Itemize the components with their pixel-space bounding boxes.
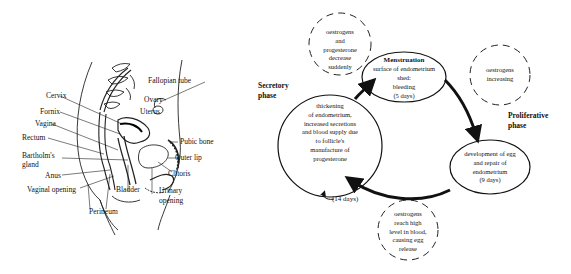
cycle-diagram xyxy=(0,0,571,274)
hormone-high-text: oestrogens reach high level in blood, ca… xyxy=(378,210,438,254)
phase-label-secretory: Secretory phase xyxy=(258,81,289,101)
duration-14-days: (14 days) xyxy=(332,196,358,203)
hormone-decrease-text: oestrogens and progesterone decrease sud… xyxy=(310,28,370,72)
stage-proliferative-text: development of egg and repair of endomet… xyxy=(452,150,528,185)
stage-secretory-text: thickening of endometrium, increased sec… xyxy=(288,102,372,163)
stage-menstruation-title: Menstruation xyxy=(362,56,446,65)
stage-menstruation-text: Menstruation surface of endometrium shed… xyxy=(362,56,446,101)
phase-label-proliferative: Proliferative phase xyxy=(508,111,548,131)
hormone-increasing-text: oestrogens increasing xyxy=(470,66,530,84)
